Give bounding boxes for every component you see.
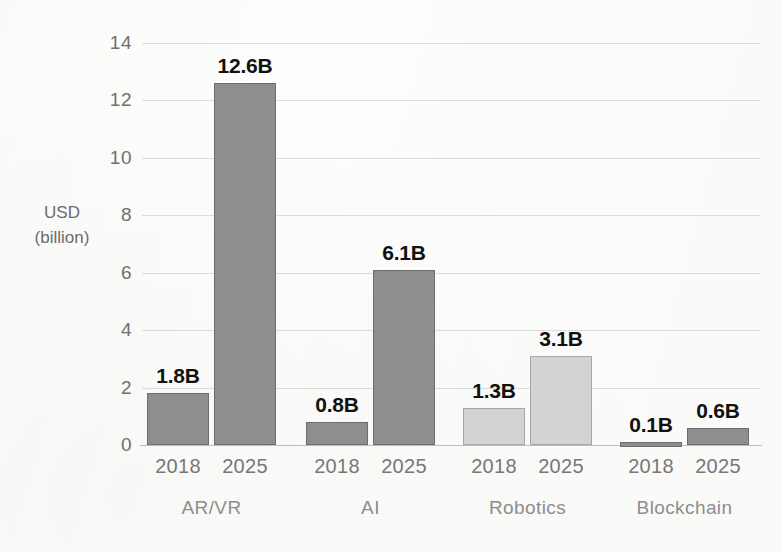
y-axis-label: USD(billion) — [10, 200, 114, 250]
gridline — [142, 43, 760, 44]
y-axis-tick-label: 6 — [92, 262, 132, 284]
y-axis-tick-label: 14 — [92, 32, 132, 54]
x-axis-year-label: 2025 — [695, 455, 741, 478]
y-axis-tick-label: 4 — [92, 319, 132, 341]
bar-robotics-2025 — [530, 356, 592, 445]
value-label: 0.8B — [315, 393, 359, 417]
category-label-ar-vr: AR/VR — [181, 497, 241, 519]
category-label-blockchain: Blockchain — [637, 497, 733, 519]
value-label: 1.8B — [156, 364, 200, 388]
bar-chart: 02468101214 USD(billion) 1.8B12.6B0.8B6.… — [0, 0, 782, 552]
bar-blockchain-2025 — [687, 428, 749, 445]
value-label: 1.3B — [472, 379, 516, 403]
x-axis-year-label: 2018 — [314, 455, 360, 478]
y-axis-label-line: (billion) — [10, 225, 114, 250]
value-label: 0.1B — [629, 413, 673, 437]
x-axis-year-label: 2018 — [471, 455, 517, 478]
bar-ar-vr-2018 — [147, 393, 209, 445]
value-label: 0.6B — [696, 399, 740, 423]
bar-blockchain-2018 — [620, 442, 682, 447]
x-axis-year-label: 2025 — [222, 455, 268, 478]
category-label-robotics: Robotics — [489, 497, 566, 519]
y-axis-tick-label: 0 — [92, 434, 132, 456]
x-axis-year-label: 2025 — [381, 455, 427, 478]
bar-ar-vr-2025 — [214, 83, 276, 445]
value-label: 12.6B — [217, 54, 272, 78]
x-axis-year-label: 2025 — [538, 455, 584, 478]
category-label-ai: AI — [361, 497, 380, 519]
y-axis-tick-label: 12 — [92, 89, 132, 111]
value-label: 6.1B — [382, 241, 426, 265]
bar-ai-2018 — [306, 422, 368, 445]
y-axis-tick-label: 10 — [92, 147, 132, 169]
value-label: 3.1B — [539, 327, 583, 351]
bar-robotics-2018 — [463, 408, 525, 445]
y-axis-label-line: USD — [10, 200, 114, 225]
x-axis-year-label: 2018 — [155, 455, 201, 478]
bar-ai-2025 — [373, 270, 435, 445]
y-axis-tick-label: 2 — [92, 377, 132, 399]
x-axis-year-label: 2018 — [628, 455, 674, 478]
